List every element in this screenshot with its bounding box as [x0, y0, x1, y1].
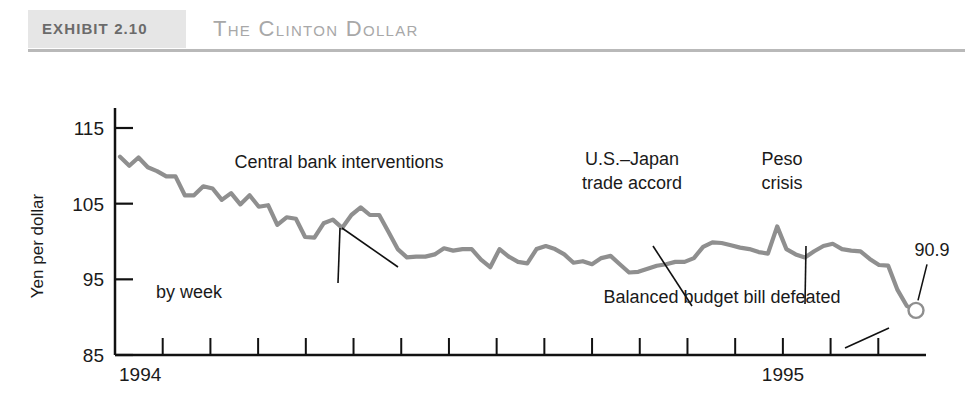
y-tick-label-115: 115	[74, 118, 104, 139]
endpoint-leader-line	[918, 264, 927, 300]
chart-container: Yen per dollar 8595105115 1994 1995 by w…	[0, 56, 976, 408]
y-axis-label: Yen per dollar	[28, 166, 48, 326]
header-divider	[28, 49, 965, 52]
by-week-note: by week	[156, 282, 223, 302]
annotation-peso-line2: crisis	[762, 173, 803, 193]
annotation-central-bank-interventions: Central bank interventions	[234, 152, 443, 172]
y-tick-label-85: 85	[83, 345, 104, 366]
annotation-peso-line1: Peso	[761, 149, 802, 169]
annotation-us-japan-line1: U.S.–Japan	[585, 149, 679, 169]
exhibit-title: The Clinton Dollar	[213, 16, 419, 42]
annotation-balanced-budget: Balanced budget bill defeated	[603, 287, 840, 307]
y-tick-label-105: 105	[72, 194, 104, 215]
exhibit-number-label: Exhibit 2.10	[42, 20, 148, 37]
x-tick-group	[163, 338, 879, 355]
y-tick-label-95: 95	[83, 269, 104, 290]
x-tick-label-1994: 1994	[119, 364, 162, 385]
annotation-us-japan-line2: trade accord	[582, 173, 682, 193]
line-chart: 8595105115 1994 1995 by week 90.9 Centra…	[0, 56, 976, 408]
x-tick-label-1995: 1995	[762, 364, 804, 385]
leader-line-central-bank-1	[338, 228, 340, 283]
endpoint-marker	[909, 303, 924, 318]
endpoint-value-label: 90.9	[914, 240, 949, 260]
exhibit-header: Exhibit 2.10 The Clinton Dollar	[28, 10, 966, 52]
y-tick-label-group: 8595105115	[72, 118, 104, 366]
exhibit-figure: Exhibit 2.10 The Clinton Dollar Yen per …	[0, 0, 976, 408]
leader-line-balanced-budget	[845, 328, 889, 348]
